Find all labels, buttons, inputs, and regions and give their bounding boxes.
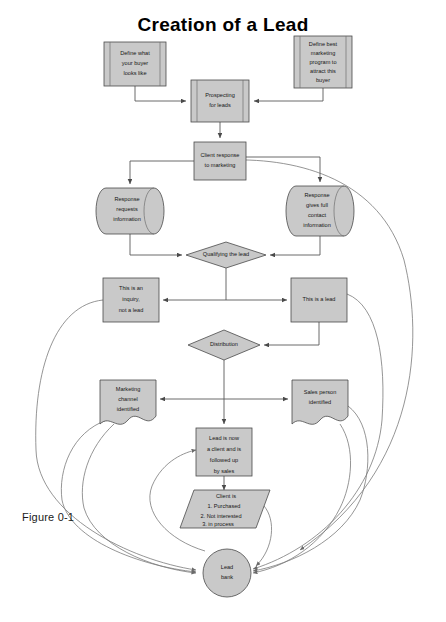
- node-label: This is a lead: [303, 296, 336, 302]
- node-lead-bank[interactable]: Lead bank: [203, 549, 251, 597]
- node-define-marketing[interactable]: Define best marketing program to attract…: [294, 36, 352, 88]
- node-label: Response: [114, 196, 139, 202]
- node-label: Response: [304, 192, 329, 198]
- edge-inquiry-to-leadbank-alt: [82, 424, 196, 573]
- node-lead-client[interactable]: Lead is now a client and is followed up …: [196, 428, 252, 476]
- node-label: by sales: [214, 468, 235, 474]
- node-label: Client response: [201, 152, 240, 158]
- node-inquiry[interactable]: This is an inquiry, not a lead: [103, 278, 159, 322]
- node-label: contact: [308, 212, 326, 218]
- node-label: Prospecting: [205, 92, 235, 98]
- edge-responserequests-to-qualifying: [130, 234, 182, 255]
- node-prospecting[interactable]: Prospecting for leads: [191, 80, 249, 122]
- node-label: to marketing: [205, 162, 236, 168]
- node-label: gives full: [306, 202, 328, 208]
- node-label: 1. Purchased: [208, 503, 241, 509]
- node-label: Qualifying the lead: [203, 251, 249, 257]
- node-label: program to: [309, 59, 336, 65]
- node-label: followed up: [210, 457, 238, 463]
- node-label: bank: [221, 574, 233, 580]
- node-sales-person[interactable]: Sales person identified: [292, 380, 348, 424]
- node-label: your buyer: [122, 60, 149, 66]
- edge-responsefull-to-qualifying: [270, 236, 320, 255]
- edge-clientresponse-to-responserequests: [130, 161, 194, 184]
- edge-islead-to-distribution: [264, 322, 319, 345]
- node-client-status[interactable]: Client is 1. Purchased 2. Not interested…: [180, 490, 270, 528]
- node-label: Define best: [309, 41, 338, 47]
- node-response-requests[interactable]: Response requests information: [96, 188, 164, 234]
- node-label: information: [113, 216, 141, 222]
- edge-islead-to-leadbank: [253, 294, 383, 569]
- node-label: identified: [309, 399, 331, 405]
- edge-salesperson-to-leadbank-alt: [253, 424, 351, 573]
- node-label: attract this: [310, 68, 336, 74]
- node-response-full[interactable]: Response gives full contact information: [286, 186, 354, 236]
- node-label: 2. Not interested: [200, 513, 241, 519]
- node-label: channel: [118, 396, 138, 402]
- node-is-lead[interactable]: This is a lead: [291, 278, 347, 322]
- node-client-response[interactable]: Client response to marketing: [194, 142, 246, 180]
- node-qualifying[interactable]: Qualifying the lead: [186, 242, 266, 268]
- node-label: not a lead: [119, 307, 144, 313]
- node-label: requests: [116, 206, 138, 212]
- flowchart-canvas: Define what your buyer looks like Define…: [0, 0, 446, 622]
- node-label: Distribution: [210, 341, 238, 347]
- node-label: Marketing: [116, 386, 141, 392]
- edge-definebuyer-to-prospecting: [135, 86, 186, 101]
- edge-definemarketing-to-prospecting: [254, 88, 323, 101]
- node-label: identified: [117, 406, 139, 412]
- node-label: marketing: [311, 50, 336, 56]
- node-label: buyer: [316, 77, 330, 83]
- node-label: a client and is: [207, 446, 241, 452]
- node-label: Lead is now: [209, 435, 240, 441]
- node-label: 3. in process: [202, 521, 234, 527]
- edge-salesperson-to-leadbank: [253, 406, 368, 571]
- node-define-buyer[interactable]: Define what your buyer looks like: [104, 42, 166, 86]
- node-label: inquiry,: [122, 296, 140, 302]
- node-label: information: [303, 222, 331, 228]
- node-label: Sales person: [304, 389, 337, 395]
- node-label: looks like: [123, 70, 146, 76]
- node-label: Define what: [120, 50, 150, 56]
- edge-marketing-to-leadbank: [61, 420, 196, 572]
- node-label: Client is: [216, 493, 236, 499]
- node-distribution[interactable]: Distribution: [188, 330, 260, 360]
- node-label: Lead: [221, 564, 233, 570]
- node-label: for leads: [209, 102, 231, 108]
- node-marketing-channel[interactable]: Marketing channel identified: [100, 380, 156, 424]
- diagram-page: Creation of a Lead: [0, 0, 446, 622]
- edge-inquiry-to-leadbank: [36, 300, 196, 570]
- figure-caption: Figure 0-1: [22, 511, 74, 523]
- node-label: This is an: [119, 285, 143, 291]
